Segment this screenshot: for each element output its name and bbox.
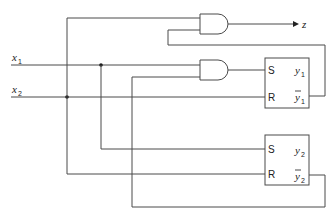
ff1-qbar-subscript: 1 xyxy=(301,98,305,105)
x1-label: x xyxy=(11,51,17,63)
ff1-r-label: R xyxy=(268,92,275,103)
x1-branch-wire xyxy=(101,65,265,149)
ff1-s-label: S xyxy=(268,65,275,76)
ff2-r-label: R xyxy=(268,169,275,180)
x2-branch-wire xyxy=(67,18,265,174)
ff2-q-subscript: 2 xyxy=(301,151,305,158)
x2-subscript: 2 xyxy=(18,90,22,97)
ff1-q-label: y xyxy=(294,64,300,76)
ff2-s-label: S xyxy=(268,144,275,155)
x1-subscript: 1 xyxy=(18,58,22,65)
z-arrow-icon xyxy=(293,21,299,27)
and-gate-mid xyxy=(200,60,228,80)
ff1-qbar-label: y xyxy=(294,91,300,103)
circuit-diagram: x 1 x 2 z S R y 1 y 1 S xyxy=(0,0,336,217)
and-gate-top xyxy=(200,14,228,34)
ff2-q-label: y xyxy=(294,144,300,156)
flip-flop-1: S R y 1 y 1 xyxy=(265,58,309,108)
x2-label: x xyxy=(11,83,17,95)
z-label: z xyxy=(301,18,307,30)
input-x1: x 1 xyxy=(11,51,200,65)
input-x2: x 2 xyxy=(11,83,265,97)
ff2-qbar-subscript: 2 xyxy=(301,177,305,184)
ff2-qbar-label: y xyxy=(294,170,300,182)
ff1-q-subscript: 1 xyxy=(301,71,305,78)
flip-flop-2: S R y 2 y 2 xyxy=(265,135,309,185)
